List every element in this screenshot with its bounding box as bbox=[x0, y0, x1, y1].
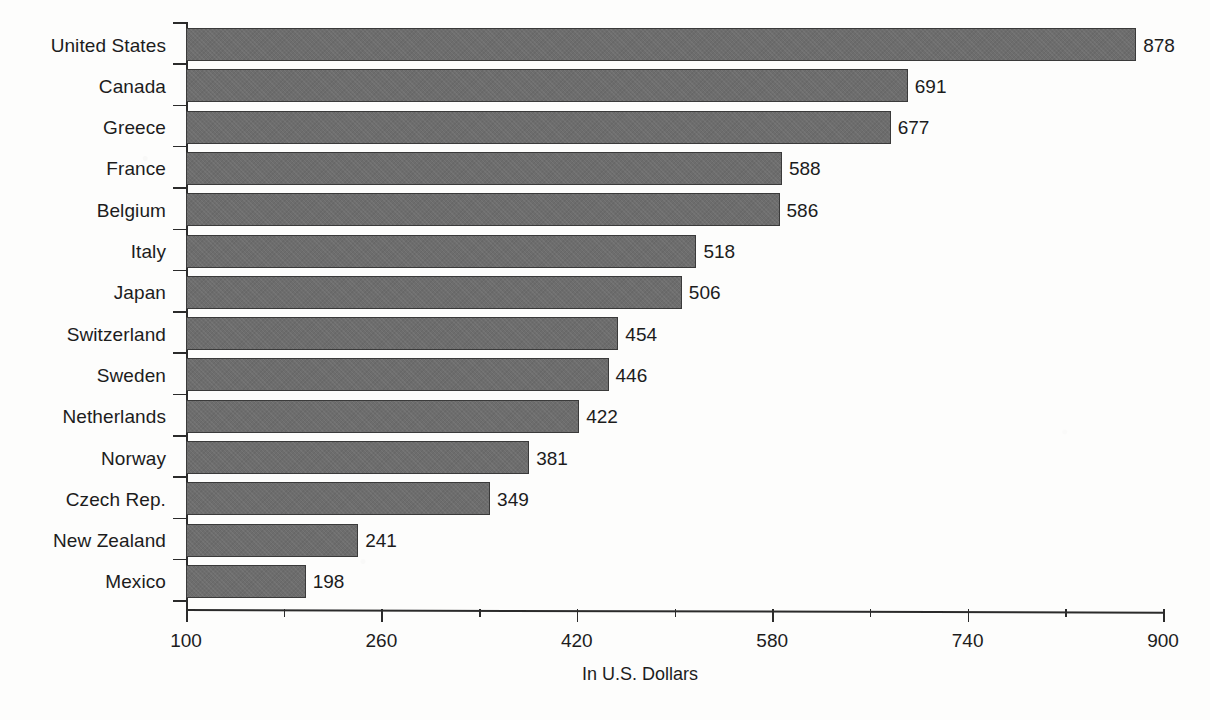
category-label: Belgium bbox=[97, 201, 166, 220]
bar-united-states bbox=[186, 28, 1136, 61]
bar-japan bbox=[186, 276, 682, 309]
bar-italy bbox=[186, 235, 696, 268]
value-label: 241 bbox=[365, 531, 397, 550]
category-label: Czech Rep. bbox=[66, 490, 166, 509]
x-axis-major-tick bbox=[577, 609, 579, 622]
category-label: Canada bbox=[99, 77, 166, 96]
y-axis-tick bbox=[173, 270, 187, 272]
y-axis-tick bbox=[173, 229, 187, 231]
category-label: United States bbox=[51, 36, 166, 55]
y-axis-tick bbox=[173, 352, 187, 354]
value-label: 349 bbox=[497, 490, 529, 509]
y-axis-tick bbox=[173, 63, 187, 65]
category-label: Netherlands bbox=[62, 407, 166, 426]
bar-sweden bbox=[186, 358, 609, 391]
value-label: 518 bbox=[703, 242, 735, 261]
x-axis-minor-tick bbox=[284, 609, 286, 617]
x-axis-tick-label: 260 bbox=[366, 631, 398, 650]
bar-mexico bbox=[186, 565, 306, 598]
y-axis-tick bbox=[173, 559, 187, 561]
value-label: 677 bbox=[898, 118, 930, 137]
x-axis-title-text: In U.S. Dollars bbox=[582, 664, 698, 684]
value-label: 878 bbox=[1143, 36, 1175, 55]
bar-netherlands bbox=[186, 400, 579, 433]
x-axis-tick-label: 420 bbox=[561, 631, 593, 650]
category-label: New Zealand bbox=[53, 531, 166, 550]
x-axis-major-tick bbox=[772, 609, 774, 622]
category-label: Japan bbox=[114, 283, 166, 302]
x-axis-major-tick bbox=[968, 609, 970, 622]
bar-france bbox=[186, 152, 782, 185]
category-label: Italy bbox=[131, 242, 166, 261]
x-axis-minor-tick bbox=[1065, 609, 1067, 617]
y-axis-tick bbox=[173, 476, 187, 478]
bar-greece bbox=[186, 111, 891, 144]
value-label: 454 bbox=[625, 325, 657, 344]
value-label: 506 bbox=[689, 283, 721, 302]
y-axis-tick bbox=[173, 105, 187, 107]
y-axis-tick bbox=[173, 22, 187, 24]
bar-czech-rep bbox=[186, 482, 490, 515]
y-axis-tick bbox=[173, 146, 187, 148]
y-axis-tick bbox=[173, 600, 187, 602]
x-axis-major-tick bbox=[186, 609, 188, 622]
y-axis-tick bbox=[173, 518, 187, 520]
x-axis-minor-tick bbox=[479, 609, 481, 617]
x-axis-minor-tick bbox=[870, 609, 872, 617]
x-axis-tick-label: 580 bbox=[756, 631, 788, 650]
bar-canada bbox=[186, 69, 908, 102]
category-label: Norway bbox=[101, 449, 166, 468]
x-axis-tick-label: 740 bbox=[952, 631, 984, 650]
category-label: Sweden bbox=[97, 366, 166, 385]
x-axis-title: In U.S. Dollars bbox=[0, 665, 1210, 683]
bar-switzerland bbox=[186, 317, 618, 350]
x-axis-major-tick bbox=[381, 609, 383, 622]
y-axis-tick bbox=[173, 435, 187, 437]
category-label: Greece bbox=[103, 118, 166, 137]
value-label: 446 bbox=[616, 366, 648, 385]
value-label: 586 bbox=[787, 201, 819, 220]
bar-norway bbox=[186, 441, 529, 474]
value-label: 422 bbox=[586, 407, 618, 426]
y-axis-tick bbox=[173, 394, 187, 396]
chart-page: United StatesCanadaGreeceFranceBelgiumIt… bbox=[0, 0, 1210, 720]
category-label: Mexico bbox=[105, 572, 166, 591]
x-axis-major-tick bbox=[1163, 609, 1165, 622]
x-axis-tick-label: 900 bbox=[1147, 631, 1179, 650]
x-axis-tick-label: 100 bbox=[170, 631, 202, 650]
category-label: Switzerland bbox=[67, 325, 166, 344]
value-label: 381 bbox=[536, 449, 568, 468]
value-label: 198 bbox=[313, 572, 345, 591]
y-axis-tick bbox=[173, 187, 187, 189]
x-axis-minor-tick bbox=[675, 609, 677, 617]
value-label: 588 bbox=[789, 159, 821, 178]
bar-chart-plot-area: United StatesCanadaGreeceFranceBelgiumIt… bbox=[0, 0, 1210, 720]
y-axis-tick bbox=[173, 311, 187, 313]
category-label: France bbox=[106, 159, 166, 178]
bar-belgium bbox=[186, 193, 780, 226]
value-label: 691 bbox=[915, 77, 947, 96]
bar-new-zealand bbox=[186, 524, 358, 557]
